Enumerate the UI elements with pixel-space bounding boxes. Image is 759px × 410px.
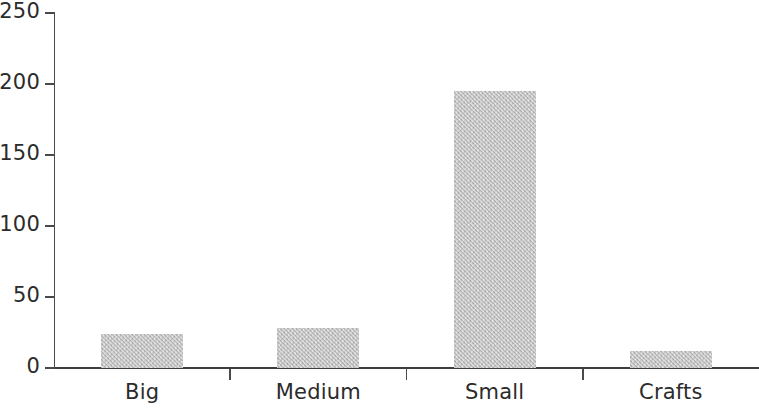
y-axis-tick-mark [45,12,55,14]
x-axis-separator-tick [229,369,231,380]
y-axis-tick-label: 100 [0,212,40,236]
x-axis-separator-tick [582,369,584,380]
x-axis-label-big: Big [54,380,230,404]
y-axis-tick-mark [45,83,55,85]
y-axis-tick-mark [45,367,55,369]
bar-chart: 050100150200250 BigMediumSmallCrafts [0,0,759,410]
bar-crafts [630,351,712,368]
y-axis-tick-mark [45,225,55,227]
x-axis-separator-tick [406,369,408,380]
plot-area: 050100150200250 BigMediumSmallCrafts [0,0,759,410]
bar-big [101,334,183,368]
y-axis-tick-label: 50 [13,283,40,307]
y-axis-tick-label: 250 [0,0,40,23]
y-axis-tick-label: 0 [26,354,40,378]
x-axis-label-crafts: Crafts [583,380,759,404]
x-axis-label-small: Small [407,380,583,404]
y-axis-tick-mark [45,296,55,298]
bar-small [454,91,536,368]
bar-medium [277,328,359,368]
y-axis-tick-label: 150 [0,141,40,165]
y-axis-line [54,13,55,368]
x-axis-label-medium: Medium [230,380,406,404]
y-axis-tick-label: 200 [0,70,40,94]
y-axis-tick-mark [45,154,55,156]
